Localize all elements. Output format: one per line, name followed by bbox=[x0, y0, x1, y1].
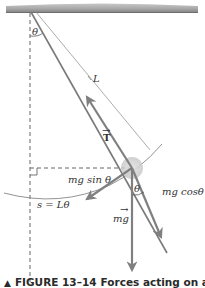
mg-sin-label: mg sin θ bbox=[68, 174, 111, 185]
right-angle-marker bbox=[30, 168, 37, 175]
theta-label-top: θ bbox=[32, 26, 38, 37]
mg-cos-arrow bbox=[132, 168, 161, 237]
figure-caption: ▲FIGURE 13–14Forces acting on a bbox=[4, 276, 205, 288]
theta-label-bob: θ bbox=[134, 183, 140, 194]
figure-caption-text: Forces acting on a bbox=[101, 276, 205, 288]
arc-length-label: s = Lθ bbox=[37, 199, 70, 210]
triangle-marker-icon: ▲ bbox=[4, 278, 11, 288]
figure-number: FIGURE 13–14 bbox=[15, 276, 97, 288]
pendulum-force-diagram: θ L T → mg sin θ mg cosθ θ mg → s = Lθ bbox=[0, 0, 205, 288]
weight-vector-mark: → bbox=[120, 204, 129, 215]
length-label: L bbox=[92, 73, 100, 84]
mg-cos-label: mg cosθ bbox=[162, 186, 204, 197]
ceiling bbox=[6, 4, 198, 13]
pendulum-string bbox=[31, 12, 167, 253]
tension-vector-mark: → bbox=[102, 125, 111, 136]
